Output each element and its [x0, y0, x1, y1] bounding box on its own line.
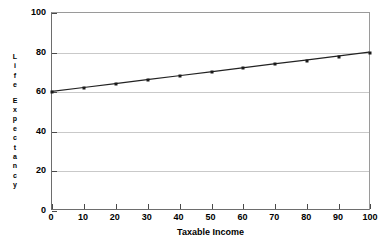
- x-axis-tick-label: 0: [48, 212, 53, 222]
- y-tick-mark: [52, 171, 57, 172]
- x-axis-tick-label: 100: [362, 212, 377, 222]
- data-point-marker: [242, 67, 245, 70]
- y-axis-tick-label: 100: [20, 7, 46, 17]
- series-polyline: [52, 52, 369, 91]
- x-tick-mark: [84, 204, 85, 209]
- x-axis-tick-label: 70: [269, 212, 279, 222]
- y-tick-mark: [52, 13, 57, 14]
- y-axis-tick-label: 60: [20, 86, 46, 96]
- gridline-horizontal: [52, 92, 369, 93]
- x-axis-tick-label: 40: [174, 212, 184, 222]
- gridline-horizontal: [52, 53, 369, 54]
- y-tick-mark: [52, 92, 57, 93]
- data-point-marker: [306, 59, 309, 62]
- x-tick-mark: [212, 204, 213, 209]
- plot-area: [51, 12, 370, 210]
- x-tick-mark: [275, 204, 276, 209]
- y-axis-tick-label: 20: [20, 165, 46, 175]
- x-axis-tick-label: 60: [237, 212, 247, 222]
- x-axis-tick-label: 10: [78, 212, 88, 222]
- x-tick-mark: [243, 204, 244, 209]
- x-tick-mark: [148, 204, 149, 209]
- data-point-marker: [51, 91, 54, 94]
- gridlines: [52, 13, 369, 209]
- y-tick-mark: [52, 53, 57, 54]
- data-point-marker: [114, 83, 117, 86]
- x-tick-mark: [116, 204, 117, 209]
- x-axis-tick-label: 90: [333, 212, 343, 222]
- chart-container: LifeExpectancy 020406080100 010203040506…: [0, 0, 384, 245]
- gridline-horizontal: [52, 171, 369, 172]
- x-axis-tick-label: 20: [110, 212, 120, 222]
- x-tick-mark: [52, 204, 53, 209]
- data-series-layer: [52, 13, 369, 209]
- x-axis-title: Taxable Income: [51, 227, 370, 237]
- data-point-marker: [369, 51, 372, 54]
- x-tick-mark: [339, 204, 340, 209]
- x-tick-mark: [180, 204, 181, 209]
- x-axis-tick-labels: 0102030405060708090100: [0, 212, 384, 226]
- data-point-marker: [274, 63, 277, 66]
- x-tick-mark: [307, 204, 308, 209]
- x-axis-tick-label: 30: [142, 212, 152, 222]
- data-point-marker: [338, 55, 341, 58]
- x-axis-tick-label: 50: [205, 212, 215, 222]
- y-axis-tick-label: 40: [20, 126, 46, 136]
- x-axis-tick-label: 80: [301, 212, 311, 222]
- gridline-horizontal: [52, 132, 369, 133]
- tick-marks: [52, 13, 369, 209]
- line-series: [52, 13, 369, 209]
- y-axis-tick-label: 80: [20, 47, 46, 57]
- data-point-marker: [178, 75, 181, 78]
- data-point-marker: [146, 79, 149, 82]
- x-tick-mark: [370, 204, 371, 209]
- data-point-marker: [82, 87, 85, 90]
- data-point-marker: [210, 71, 213, 74]
- y-axis-tick-labels: 020406080100: [20, 0, 46, 245]
- y-tick-mark: [52, 132, 57, 133]
